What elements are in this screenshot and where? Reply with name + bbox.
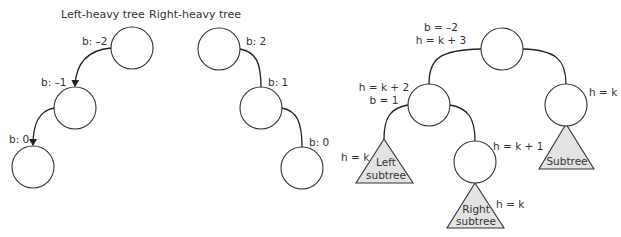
left-heavy-balance-root: b: –2 [82,35,107,47]
right-heavy-balance-child: b: 1 [268,76,288,88]
right-subtree-label-2: subtree [456,215,496,227]
avl-node-root [481,28,523,70]
edge-left-grandchild [450,105,475,141]
right-heavy-balance-grandchild: b: 0 [309,136,329,148]
left-child-height-label: h = k + 2 [359,81,409,93]
left-heavy-balance-grandchild: b: 0 [9,133,29,145]
edge-left-leftsubtree [384,105,408,139]
right-heavy-node-root [198,28,240,70]
left-heavy-edge-1 [75,48,111,86]
left-heavy-node-root [111,27,153,69]
left-heavy-balance-child: b: –1 [41,76,66,88]
left-child-balance-label: b = 1 [370,94,399,106]
root-height-label: h = k + 3 [416,34,466,46]
left-heavy-node-grandchild [12,146,54,188]
avl-example-tree: Left subtree Right subtree Subtree b = –… [341,21,618,228]
right-heavy-balance-root: b: 2 [246,35,266,47]
right-heavy-edge-2 [282,108,302,147]
avl-node-right-child [545,84,587,126]
edge-root-left [429,49,481,84]
subtree-label: Subtree [546,155,587,167]
right-heavy-node-child [240,87,282,129]
left-heavy-node-child [54,87,96,129]
edge-root-right [523,49,566,84]
left-heavy-tree: Left-heavy tree b: –2 b: –1 b: 0 [9,8,153,188]
right-heavy-edge-1 [240,49,261,88]
left-subtree-label-2: subtree [366,169,406,181]
right-child-height-label: h = k [589,86,618,98]
grandchild-height-label: h = k + 1 [493,140,543,152]
left-heavy-title: Left-heavy tree [61,8,145,21]
left-heavy-edge-2 [33,108,54,145]
right-subtree-label-1: Right [462,203,490,215]
root-balance-label: b = –2 [424,21,458,33]
left-subtree-label-1: Left [376,156,396,168]
left-subtree-height-label: h = k [341,151,370,163]
right-heavy-title: Right-heavy tree [149,8,241,21]
right-subtree-height-label: h = k [496,198,525,210]
avl-node-left-child [408,84,450,126]
avl-trees-diagram: Left-heavy tree b: –2 b: –1 b: 0 Right-h… [0,0,621,237]
right-heavy-node-grandchild [281,147,323,189]
avl-node-grandchild [454,141,496,183]
right-heavy-tree: Right-heavy tree b: 2 b: 1 b: 0 [149,8,329,189]
